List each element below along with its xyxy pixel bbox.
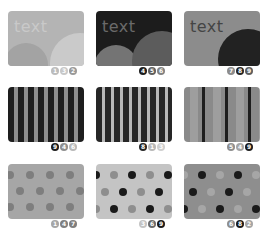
dot [8, 171, 14, 179]
circle-shape [132, 31, 172, 66]
swatch-card-1: text [8, 11, 84, 66]
swatch-card-9 [184, 164, 260, 219]
dot [110, 205, 118, 213]
dot [110, 171, 118, 179]
swatch-card-3: text [184, 11, 260, 66]
number-badge: 8 [236, 67, 244, 75]
circle-shape [50, 33, 84, 66]
number-badge: 9 [245, 143, 253, 151]
dot [66, 203, 74, 211]
dot [76, 187, 84, 195]
number-badge: 3 [60, 67, 68, 75]
number-badge: 1 [148, 143, 156, 151]
badge-group-5: 8 1 3 [139, 143, 165, 151]
number-badge: 1 [51, 67, 59, 75]
badge-group-3: 7 8 9 [227, 67, 253, 75]
dot [198, 205, 206, 213]
badge-group-7: 1 4 7 [51, 220, 77, 228]
number-badge: 6 [157, 67, 165, 75]
dot [146, 171, 154, 179]
dot [128, 205, 136, 213]
swatch-card-5 [96, 87, 172, 142]
badge-group-1: 1 3 2 [51, 67, 77, 75]
badge-group-4: 9 4 6 [51, 143, 77, 151]
number-badge: 8 [139, 143, 147, 151]
badge-group-9: 6 8 2 [227, 220, 253, 228]
dot [8, 203, 14, 211]
number-badge: 4 [236, 143, 244, 151]
dot [46, 203, 54, 211]
number-badge: 2 [245, 220, 253, 228]
card-label: text [190, 17, 224, 36]
number-badge: 1 [51, 220, 59, 228]
swatch-card-2: text [96, 11, 172, 66]
dot [128, 171, 136, 179]
dot [216, 205, 224, 213]
number-badge: 6 [69, 143, 77, 151]
dot [96, 205, 100, 213]
number-badge: 9 [157, 220, 165, 228]
dot [155, 188, 163, 196]
dot [252, 171, 260, 179]
dot [164, 171, 172, 179]
dot [189, 188, 197, 196]
number-badge: 8 [236, 220, 244, 228]
number-badge: 4 [60, 220, 68, 228]
number-badge: 2 [69, 67, 77, 75]
dot [146, 205, 154, 213]
dot [16, 187, 24, 195]
swatch-card-7 [8, 164, 84, 219]
circle-shape [218, 29, 260, 66]
number-badge: 7 [69, 220, 77, 228]
dot [46, 171, 54, 179]
dot [26, 171, 34, 179]
swatch-card-4 [8, 87, 84, 142]
badge-group-6: 5 4 9 [227, 143, 253, 151]
badge-group-2: 4 5 6 [139, 67, 165, 75]
dot [119, 188, 127, 196]
dot [56, 187, 64, 195]
badge-group-8: 3 6 9 [139, 220, 165, 228]
number-badge: 3 [157, 143, 165, 151]
dot [184, 171, 188, 179]
dot [207, 188, 215, 196]
dot [234, 205, 242, 213]
card-label: text [14, 17, 48, 36]
dot [252, 205, 260, 213]
number-badge: 9 [51, 143, 59, 151]
swatch-card-6 [184, 87, 260, 142]
dot [164, 205, 172, 213]
dot [36, 187, 44, 195]
dot [243, 188, 251, 196]
number-badge: 4 [139, 67, 147, 75]
circle-shape [8, 43, 48, 66]
number-badge: 4 [60, 143, 68, 151]
number-badge: 7 [227, 67, 235, 75]
dot [198, 171, 206, 179]
dot [26, 203, 34, 211]
dot [66, 171, 74, 179]
dot [216, 171, 224, 179]
number-badge: 3 [139, 220, 147, 228]
dot [137, 188, 145, 196]
number-badge: 6 [148, 220, 156, 228]
number-badge: 6 [227, 220, 235, 228]
dot [101, 188, 109, 196]
dot [225, 188, 233, 196]
number-badge: 5 [227, 143, 235, 151]
dot [234, 171, 242, 179]
number-badge: 9 [245, 67, 253, 75]
card-label: text [102, 17, 136, 36]
number-badge: 5 [148, 67, 156, 75]
swatch-card-8 [96, 164, 172, 219]
dot [184, 205, 188, 213]
dot [96, 171, 100, 179]
